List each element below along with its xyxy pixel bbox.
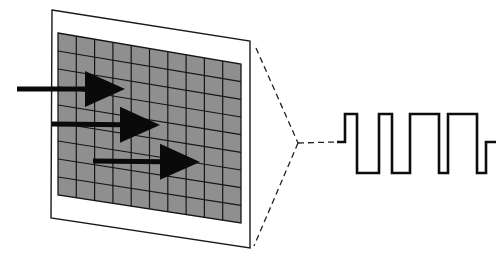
zoom-callout-lines <box>254 48 336 246</box>
zoom-line-lead <box>298 142 336 143</box>
zoom-line-bottom <box>254 143 298 246</box>
diagram-canvas <box>0 0 504 264</box>
arrow-shaft <box>93 161 162 162</box>
zoom-line-top <box>256 48 298 143</box>
signal-waveform <box>337 114 496 173</box>
arrow-shaft <box>52 124 122 125</box>
square-wave-signal <box>337 114 496 173</box>
